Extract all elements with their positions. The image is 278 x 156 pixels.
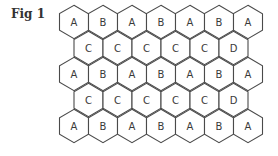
hex-label: B xyxy=(100,121,107,132)
hex-label: B xyxy=(158,121,165,132)
hex-label: B xyxy=(158,17,165,28)
hex-label: C xyxy=(85,43,92,54)
hex-label: B xyxy=(158,69,165,80)
hex-label: B xyxy=(216,69,223,80)
hex-label: A xyxy=(129,17,136,28)
hex-label: A xyxy=(187,121,194,132)
hex-label: A xyxy=(245,17,252,28)
hex-label: C xyxy=(172,43,179,54)
hex-label: C xyxy=(114,43,121,54)
hex-label: A xyxy=(187,69,194,80)
hex-label: C xyxy=(143,95,150,106)
hex-label: A xyxy=(71,17,78,28)
hex-label: A xyxy=(245,121,252,132)
hex-label: C xyxy=(201,43,208,54)
hex-label: C xyxy=(201,95,208,106)
hex-label: C xyxy=(114,95,121,106)
hex-label: A xyxy=(245,69,252,80)
hex-label: A xyxy=(129,121,136,132)
hex-label: C xyxy=(143,43,150,54)
hex-label: C xyxy=(172,95,179,106)
hex-label: C xyxy=(85,95,92,106)
hex-label: D xyxy=(230,43,238,54)
hex-label: A xyxy=(129,69,136,80)
hex-label: A xyxy=(71,69,78,80)
hex-label: B xyxy=(100,17,107,28)
hex-label: B xyxy=(216,121,223,132)
hex-label: B xyxy=(100,69,107,80)
hex-label: A xyxy=(71,121,78,132)
hex-label: B xyxy=(216,17,223,28)
hex-label: A xyxy=(187,17,194,28)
hexagon-grid: ABABABACCCCCDABABABACCCCCDABABABA xyxy=(0,0,278,156)
hex-label: D xyxy=(230,95,238,106)
